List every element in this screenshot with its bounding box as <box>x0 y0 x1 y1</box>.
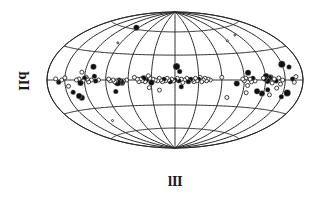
data-point <box>275 86 279 90</box>
data-point <box>132 75 136 79</box>
data-point <box>66 84 70 88</box>
data-point <box>234 81 240 87</box>
data-point <box>245 70 251 76</box>
data-point <box>76 93 82 99</box>
data-point <box>278 61 285 68</box>
data-point <box>279 94 284 99</box>
data-point <box>281 78 285 82</box>
data-point <box>284 89 291 96</box>
data-point <box>261 76 265 80</box>
data-point <box>146 74 150 78</box>
data-point <box>226 40 228 42</box>
data-point <box>225 95 229 99</box>
data-point <box>111 120 113 122</box>
y-axis-label: bII <box>16 66 30 96</box>
sky-map-figure <box>0 0 327 197</box>
data-point <box>287 64 292 69</box>
data-point <box>265 87 270 92</box>
data-point <box>54 77 58 81</box>
data-point <box>290 76 295 81</box>
data-point <box>71 90 76 95</box>
data-point <box>93 78 98 83</box>
data-point <box>270 81 274 85</box>
data-point <box>80 70 84 74</box>
data-point <box>254 88 260 94</box>
x-axis-label: lII <box>155 174 195 190</box>
data-point <box>147 86 151 90</box>
data-point <box>248 77 252 81</box>
data-point <box>74 78 78 82</box>
data-point <box>246 84 250 88</box>
data-point <box>107 77 111 81</box>
data-point <box>234 34 236 36</box>
data-point <box>117 42 119 44</box>
data-point <box>267 93 271 97</box>
data-point <box>113 89 118 94</box>
data-point <box>220 75 224 79</box>
data-point <box>90 64 96 70</box>
data-point <box>279 82 283 86</box>
data-point <box>241 77 245 81</box>
data-point <box>179 84 184 89</box>
data-point <box>157 88 161 92</box>
data-point <box>244 91 248 95</box>
data-point <box>177 69 182 74</box>
data-point <box>133 25 139 31</box>
